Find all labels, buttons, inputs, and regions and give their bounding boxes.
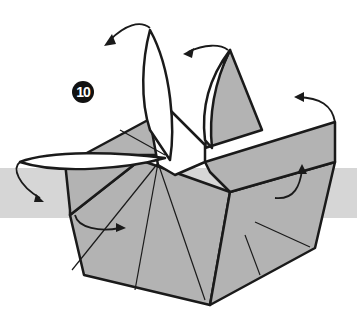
- arrow-top-left: [110, 24, 150, 40]
- arrow-left: [17, 162, 40, 198]
- origami-diagram: 10: [0, 0, 357, 311]
- origami-figure: [0, 0, 357, 311]
- arrow-top-center: [188, 46, 228, 52]
- step-number-badge: 10: [72, 81, 94, 103]
